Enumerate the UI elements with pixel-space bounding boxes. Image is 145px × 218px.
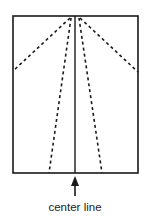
outer-right-fold-line xyxy=(80,18,138,72)
center-line-label: center line xyxy=(48,201,101,213)
arrow-up-icon xyxy=(71,176,79,196)
inner-left-fold-line xyxy=(49,18,71,173)
fold-diagram: center line xyxy=(0,0,145,218)
outer-left-fold-line xyxy=(13,18,70,71)
inner-right-fold-line xyxy=(79,18,102,173)
